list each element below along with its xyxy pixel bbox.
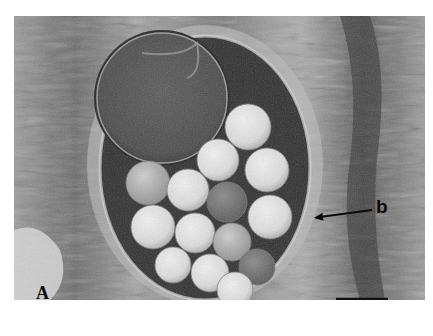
panel-label: A [36, 283, 49, 304]
annotation-label-b: b [376, 196, 388, 218]
micrograph-image [14, 16, 425, 300]
